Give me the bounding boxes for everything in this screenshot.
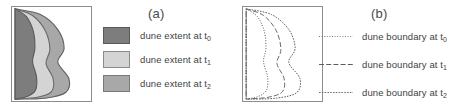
legend-label-t0: dune extent at t0: [140, 30, 211, 41]
legend-item-t1: dune extent at t1: [103, 51, 211, 68]
legend-item-t1: dune boundary at t1: [319, 56, 447, 73]
panel-b-dune-boundary-plot: [243, 7, 322, 101]
panel-a-dune-extent-plot: [12, 7, 91, 101]
panel-a-legend: dune extent at t0 dune extent at t1 dune…: [103, 27, 211, 92]
legend-swatch-t2: [103, 75, 130, 92]
legend-item-t0: dune extent at t0: [103, 27, 211, 44]
panel-b-label: (b): [371, 6, 388, 21]
legend-line-t2: [319, 91, 353, 94]
panel-b-plot-frame: [242, 6, 323, 102]
legend-label-t2: dune extent at t2: [140, 78, 211, 89]
legend-swatch-t1: [103, 51, 130, 68]
panel-a-plot-frame: [11, 6, 92, 102]
legend-item-t2: dune extent at t2: [103, 75, 211, 92]
panel-b: (b) dune boundary at t0 dune boundary at…: [231, 0, 462, 108]
legend-label-t1: dune extent at t1: [140, 54, 211, 65]
legend-item-t0: dune boundary at t0: [319, 28, 447, 45]
legend-label-t0: dune boundary at t0: [362, 31, 447, 42]
legend-label-t2: dune boundary at t2: [362, 87, 447, 98]
legend-line-t0: [319, 35, 353, 38]
legend-item-t2: dune boundary at t2: [319, 84, 447, 101]
figure-container: (a) dune extent at t0 dune extent at t1 …: [0, 0, 462, 108]
dune-boundary-t2: [246, 9, 300, 99]
legend-swatch-t0: [103, 27, 130, 44]
legend-line-t1: [319, 63, 353, 66]
dune-boundary-t1: [246, 9, 285, 99]
dune-boundary-t0: [246, 9, 268, 99]
panel-b-legend: dune boundary at t0 dune boundary at t1 …: [319, 28, 447, 101]
panel-a: (a) dune extent at t0 dune extent at t1 …: [0, 0, 231, 108]
legend-label-t1: dune boundary at t1: [362, 59, 447, 70]
panel-a-label: (a): [148, 6, 165, 21]
